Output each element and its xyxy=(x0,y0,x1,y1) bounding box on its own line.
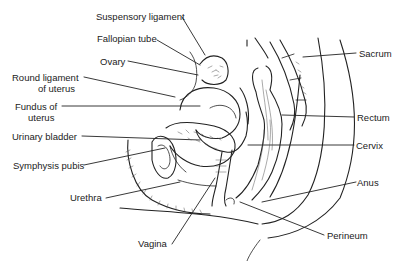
uterus xyxy=(180,88,249,153)
label-fallopian-tube: Fallopian tube xyxy=(97,33,157,44)
label-suspensory-ligament: Suspensory ligament xyxy=(96,11,185,22)
sacrum xyxy=(247,38,306,130)
symphysis-pubis xyxy=(152,136,176,178)
leader-lines xyxy=(62,17,356,244)
label-anus: Anus xyxy=(357,177,379,188)
label-fundus-line2: uterus xyxy=(28,112,54,123)
label-round-ligament-line2: of uterus xyxy=(38,83,75,94)
label-ovary: Ovary xyxy=(100,56,125,67)
label-rectum: Rectum xyxy=(357,112,390,123)
label-cervix: Cervix xyxy=(356,140,383,151)
vagina xyxy=(178,150,234,206)
label-round-ligament: Round ligament xyxy=(12,72,79,83)
label-vagina: Vagina xyxy=(138,238,167,249)
label-sacrum: Sacrum xyxy=(359,48,392,59)
label-symphysis-pubis: Symphysis pubis xyxy=(13,160,84,171)
ovary xyxy=(180,52,228,100)
label-urethra: Urethra xyxy=(70,192,102,203)
label-urinary-bladder: Urinary bladder xyxy=(12,131,77,142)
label-fundus: Fundus of xyxy=(15,101,57,112)
pelvis-diagram: Suspensory ligament Fallopian tube Ovary… xyxy=(0,0,404,261)
urinary-bladder xyxy=(166,123,235,173)
label-perineum: Perineum xyxy=(327,230,368,241)
rectum xyxy=(236,66,282,200)
